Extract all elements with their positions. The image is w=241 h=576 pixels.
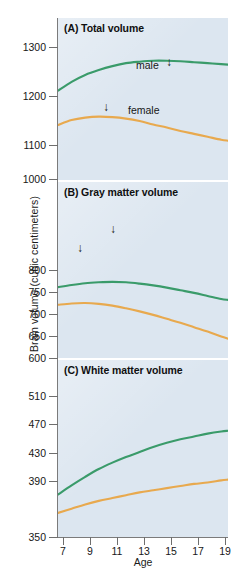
xtick-15 <box>171 537 172 545</box>
ytick-label-750: 750 <box>2 286 46 298</box>
female-curve-a <box>58 117 228 141</box>
ytick-350 <box>49 537 58 538</box>
panel-c-curves <box>58 360 228 537</box>
ytick-430 <box>49 453 58 454</box>
female-curve-b <box>58 303 228 339</box>
ytick-1200 <box>49 96 58 97</box>
male-peak-arrow-icon: ↓ <box>110 223 116 235</box>
ytick-label-800: 800 <box>2 264 46 276</box>
ytick-label-390: 390 <box>2 475 46 487</box>
female-peak-arrow-icon: ↓ <box>77 242 83 254</box>
female-peak-arrow-icon: ↓ <box>103 101 109 113</box>
x-axis-line <box>57 537 228 538</box>
xtick-13 <box>144 537 145 545</box>
ytick-1300 <box>49 47 58 48</box>
ytick-1100 <box>49 145 58 146</box>
ytick-label-1000: 1000 <box>2 173 46 185</box>
xtick-11 <box>117 537 118 545</box>
ytick-label-350: 350 <box>2 531 46 543</box>
panel-b-curves <box>58 182 228 358</box>
male-curve-b <box>58 282 228 300</box>
ytick-700 <box>49 314 58 315</box>
ytick-label-430: 430 <box>2 447 46 459</box>
panel-gray-matter-volume: (B) Gray matter volume ↓ ↓ <box>58 182 228 358</box>
xtick-17 <box>198 537 199 545</box>
panel-b-title: (B) Gray matter volume <box>64 186 178 198</box>
ytick-label-650: 650 <box>2 330 46 342</box>
ytick-470 <box>49 424 58 425</box>
ytick-510 <box>49 396 58 397</box>
ytick-label-1100: 1100 <box>2 139 46 151</box>
ytick-1000 <box>49 179 58 180</box>
panel-a-title: (A) Total volume <box>64 22 144 34</box>
panel-white-matter-volume: (C) White matter volume <box>58 360 228 537</box>
ytick-label-510: 510 <box>2 390 46 402</box>
male-curve-c <box>58 431 228 495</box>
panel-total-volume: (A) Total volume male ↓ female ↓ <box>58 18 228 180</box>
ytick-label-470: 470 <box>2 418 46 430</box>
xtick-9 <box>90 537 91 545</box>
brain-volume-figure: Brain volume (cubic centimeters) (A) Tot… <box>0 0 241 576</box>
ytick-label-1300: 1300 <box>2 41 46 53</box>
xtick-7 <box>63 537 64 545</box>
ytick-label-700: 700 <box>2 308 46 320</box>
ytick-750 <box>49 292 58 293</box>
ytick-label-1200: 1200 <box>2 90 46 102</box>
female-label: female <box>128 104 160 116</box>
female-curve-c <box>58 480 228 513</box>
male-peak-arrow-icon: ↓ <box>166 56 172 68</box>
xtick-19 <box>225 537 226 545</box>
ytick-800 <box>49 270 58 271</box>
ytick-600 <box>49 358 58 359</box>
ytick-label-600: 600 <box>2 352 46 364</box>
panel-c-title: (C) White matter volume <box>64 364 182 376</box>
x-axis-title: Age <box>58 556 228 568</box>
male-label: male <box>136 59 159 71</box>
panel-a-curves <box>58 18 228 180</box>
ytick-390 <box>49 481 58 482</box>
ytick-650 <box>49 336 58 337</box>
